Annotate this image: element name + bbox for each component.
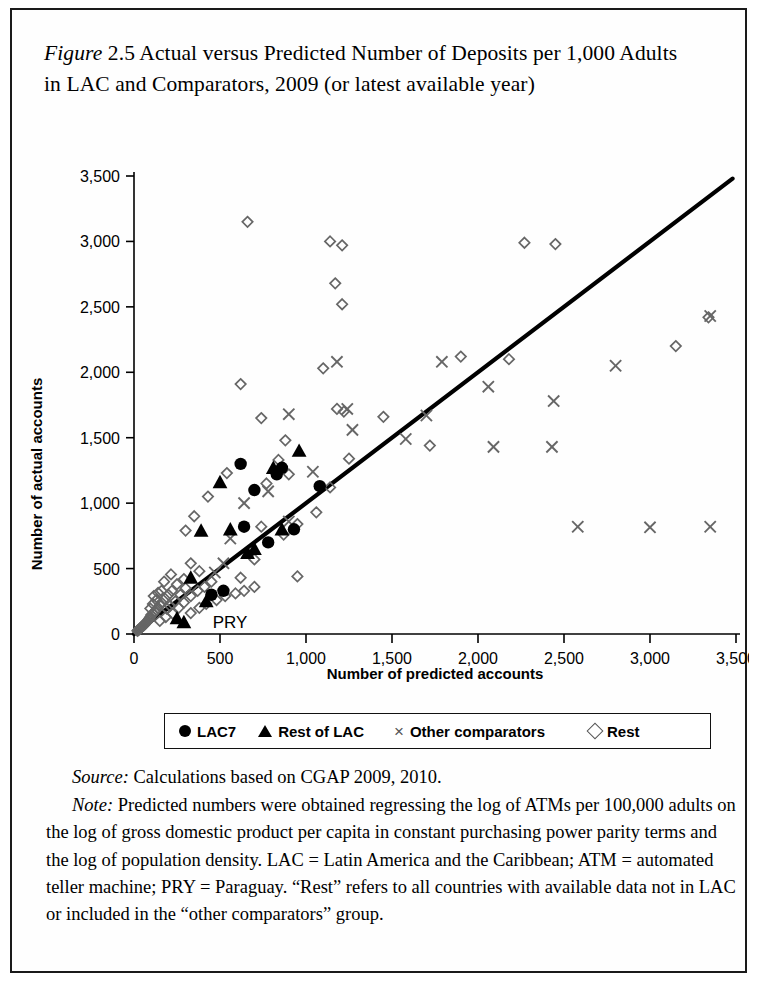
point-cross	[331, 356, 342, 367]
series-rest	[132, 217, 713, 636]
point-filled-circle	[234, 458, 246, 470]
point-open-diamond	[186, 558, 196, 568]
figure-title: Actual versus Predicted Number of Deposi…	[44, 41, 677, 96]
note-lead: Note:	[72, 795, 113, 815]
x-tick-label: 3,500	[716, 650, 749, 667]
point-filled-circle	[314, 480, 326, 492]
point-filled-circle	[262, 536, 274, 548]
point-cross	[546, 441, 557, 452]
point-open-diamond	[159, 576, 169, 586]
point-cross	[400, 433, 411, 444]
point-cross	[644, 522, 655, 533]
point-open-diamond	[242, 217, 252, 227]
source-text: Calculations based on CGAP 2009, 2010.	[129, 767, 442, 787]
point-open-diamond	[425, 440, 435, 450]
point-filled-circle	[238, 520, 250, 532]
point-open-diamond	[235, 573, 245, 583]
point-filled-triangle	[292, 443, 307, 456]
source-lead: Source:	[72, 767, 129, 787]
point-cross	[483, 381, 494, 392]
scatter-plot-svg: 05001,0001,5002,0002,5003,0003,50005001,…	[24, 144, 749, 704]
point-cross	[283, 409, 294, 420]
annotation-pry: PRY	[213, 613, 248, 632]
legend-item-rest-of-lac: Rest of LAC	[258, 723, 364, 740]
point-open-diamond	[550, 239, 560, 249]
point-filled-circle	[288, 523, 300, 535]
point-cross	[488, 441, 499, 452]
legend-label-rest-of-lac: Rest of LAC	[278, 723, 364, 740]
legend-label-rest: Rest	[607, 723, 640, 740]
figure-notes: Source: Calculations based on CGAP 2009,…	[46, 764, 736, 928]
point-cross	[209, 567, 220, 578]
point-open-diamond	[344, 453, 354, 463]
point-open-diamond	[311, 507, 321, 517]
point-cross	[347, 424, 358, 435]
figure-page: Figure 2.5 Actual versus Predicted Numbe…	[10, 8, 747, 973]
point-open-diamond	[235, 379, 245, 389]
point-open-diamond	[292, 571, 302, 581]
legend-item-other-comparators: × Other comparators	[394, 723, 545, 740]
point-cross	[436, 356, 447, 367]
y-tick-label: 2,500	[80, 299, 120, 316]
figure-caption: Figure 2.5 Actual versus Predicted Numbe…	[44, 38, 684, 99]
point-open-diamond	[249, 582, 259, 592]
point-filled-circle	[217, 585, 229, 597]
x-tick-label: 2,500	[544, 650, 584, 667]
point-filled-triangle	[223, 522, 238, 535]
point-cross	[238, 498, 249, 509]
point-cross	[572, 521, 583, 532]
chart-legend: LAC7 Rest of LAC × Other comparators Res…	[164, 713, 711, 749]
point-open-diamond	[203, 491, 213, 501]
scatter-chart: 05001,0001,5002,0002,5003,0003,50005001,…	[24, 144, 749, 704]
y-tick-label: 3,000	[80, 233, 120, 250]
x-tick-label: 500	[207, 650, 234, 667]
point-open-diamond	[337, 240, 347, 250]
figure-number-value: 2.5	[108, 41, 135, 65]
legend-item-lac7: LAC7	[179, 723, 236, 740]
figure-inner: Figure 2.5 Actual versus Predicted Numbe…	[24, 16, 739, 967]
point-cross	[610, 360, 621, 371]
point-open-diamond	[456, 351, 466, 361]
source-line: Source: Calculations based on CGAP 2009,…	[72, 764, 736, 791]
point-open-diamond	[325, 236, 335, 246]
y-tick-label: 500	[93, 561, 120, 578]
legend-item-rest: Rest	[589, 723, 640, 740]
point-open-diamond	[519, 238, 529, 248]
point-open-diamond	[180, 525, 190, 535]
point-cross	[705, 521, 716, 532]
point-open-diamond	[222, 468, 232, 478]
reference-line	[134, 179, 733, 634]
legend-label-lac7: LAC7	[197, 723, 236, 740]
point-open-diamond	[504, 354, 514, 364]
point-open-diamond	[671, 341, 681, 351]
y-tick-label: 3,500	[80, 168, 120, 185]
legend-label-other-comparators: Other comparators	[410, 723, 545, 740]
point-open-diamond	[378, 412, 388, 422]
point-filled-circle	[248, 484, 260, 496]
data-points-layer	[132, 217, 716, 636]
point-open-diamond	[330, 278, 340, 288]
x-tick-label: 3,000	[630, 650, 670, 667]
annotations-layer: PRY	[213, 613, 248, 632]
x-tick-label: 1,000	[286, 650, 326, 667]
point-open-diamond	[318, 363, 328, 373]
x-tick-label: 0	[130, 650, 139, 667]
y-tick-label: 0	[111, 626, 120, 643]
point-open-diamond	[189, 511, 199, 521]
legend-row: LAC7 Rest of LAC × Other comparators Res…	[165, 714, 710, 748]
y-axis-title: Number of actual accounts	[28, 378, 45, 571]
y-tick-label: 1,500	[80, 430, 120, 447]
cross-icon: ×	[394, 723, 404, 740]
point-open-diamond	[280, 435, 290, 445]
point-open-diamond	[166, 569, 176, 579]
point-filled-circle	[276, 462, 288, 474]
filled-circle-icon	[179, 725, 191, 737]
figure-label: Figure	[44, 41, 102, 65]
point-open-diamond	[256, 413, 266, 423]
point-filled-circle	[205, 589, 217, 601]
point-open-diamond	[194, 566, 204, 576]
note-text: Predicted numbers were obtained regressi…	[46, 795, 736, 924]
point-cross	[307, 466, 318, 477]
x-axis-title: Number of predicted accounts	[327, 665, 544, 682]
note-paragraph: Note: Predicted numbers were obtained re…	[46, 792, 736, 928]
